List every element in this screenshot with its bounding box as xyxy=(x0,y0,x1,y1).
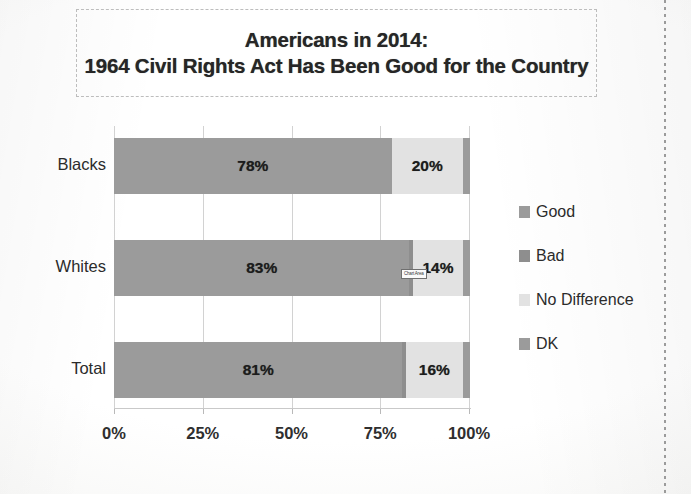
legend-swatch-icon xyxy=(519,294,530,306)
chart-title-box: Americans in 2014: 1964 Civil Rights Act… xyxy=(76,9,597,97)
legend-item-label: Good xyxy=(536,203,575,221)
legend-swatch-icon xyxy=(519,206,530,218)
chart-legend: GoodBadNo DifferenceDK xyxy=(519,190,684,366)
bar-segment-dk[interactable] xyxy=(463,240,470,296)
legend-swatch-icon xyxy=(519,338,530,350)
tickmark-0 xyxy=(114,409,115,414)
bar-segment-no-difference[interactable]: 16% xyxy=(406,342,463,398)
legend-item-bad[interactable]: Bad xyxy=(519,234,684,278)
legend-item-label: DK xyxy=(536,335,558,353)
value-axis-tick-50: 50% xyxy=(275,424,308,443)
bar-segment-no-difference[interactable]: 14% xyxy=(413,240,463,296)
legend-item-label: No Difference xyxy=(536,291,634,309)
legend-item-no-difference[interactable]: No Difference xyxy=(519,278,684,322)
bar-segment-value-label: 78% xyxy=(237,157,268,175)
bar-segment-dk[interactable] xyxy=(463,342,470,398)
tickmark-25 xyxy=(203,409,204,414)
tickmark-50 xyxy=(292,409,293,414)
bar-segment-value-label: 20% xyxy=(412,157,443,175)
legend-item-label: Bad xyxy=(536,247,564,265)
bar-segment-dk[interactable] xyxy=(463,138,470,194)
category-label-blacks: Blacks xyxy=(0,155,106,174)
bar-row[interactable]: 78%20% xyxy=(114,138,470,194)
value-axis-line xyxy=(114,408,471,409)
bar-row[interactable]: 81%16% xyxy=(114,342,470,398)
category-label-total: Total xyxy=(0,359,106,378)
bar-segment-value-label: 81% xyxy=(243,361,274,379)
chart-title-line-1: Americans in 2014: xyxy=(245,28,428,52)
bar-segment-value-label: 14% xyxy=(422,259,453,277)
value-axis-tick-100: 100% xyxy=(448,424,490,443)
bar-row[interactable]: 83%14% xyxy=(114,240,470,296)
value-axis-tick-25: 25% xyxy=(186,424,219,443)
value-axis-tick-0: 0% xyxy=(102,424,126,443)
legend-item-good[interactable]: Good xyxy=(519,190,684,234)
chart-area-tooltip: Chart Area xyxy=(401,269,427,279)
bar-segment-good[interactable]: 83% xyxy=(114,240,409,296)
value-axis-tick-75: 75% xyxy=(364,424,397,443)
category-axis-labels: BlacksWhitesTotal xyxy=(0,126,106,409)
legend-item-dk[interactable]: DK xyxy=(519,322,684,366)
bar-segment-value-label: 83% xyxy=(246,259,277,277)
plot-area: 78%20%83%14%81%16% xyxy=(114,126,470,409)
bar-segment-good[interactable]: 81% xyxy=(114,342,402,398)
chart-screenshot: Americans in 2014: 1964 Civil Rights Act… xyxy=(0,0,691,494)
category-label-whites: Whites xyxy=(0,257,106,276)
bar-segment-no-difference[interactable]: 20% xyxy=(392,138,463,194)
bar-segment-good[interactable]: 78% xyxy=(114,138,392,194)
slide-edge-guide xyxy=(664,0,666,494)
value-axis-tick-labels: 0%25%50%75%100% xyxy=(0,424,691,454)
tickmark-100 xyxy=(469,409,470,414)
legend-swatch-icon xyxy=(519,250,530,262)
bar-segment-value-label: 16% xyxy=(419,361,450,379)
tickmark-75 xyxy=(380,409,381,414)
chart-title-line-2: 1964 Civil Rights Act Has Been Good for … xyxy=(85,54,589,78)
